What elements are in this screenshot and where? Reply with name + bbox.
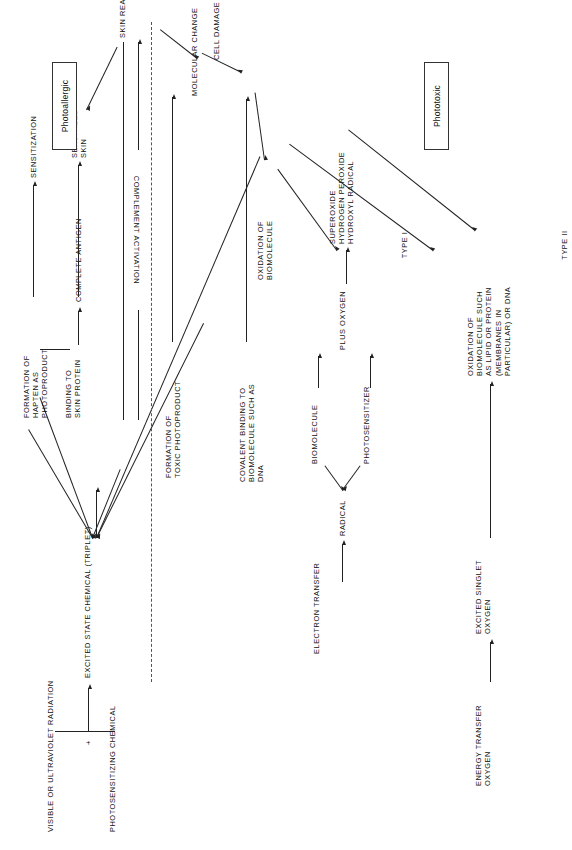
label-type-ii: TYPE II	[560, 200, 569, 290]
node-toxic-photoproduct: FORMATION OF TOXIC PHOTOPRODUCT	[164, 338, 182, 478]
connector-oxidation-to-molecular-change	[255, 93, 265, 160]
connector-antigen-to-sensitized-skin	[78, 165, 79, 297]
connector-complement-activation-line	[123, 42, 124, 420]
connector-plus-oxygen-to-ros	[346, 250, 347, 284]
label-type-i: TYPE I	[400, 200, 409, 290]
arrowhead-radical-to-photosensitizer	[342, 485, 348, 491]
node-reactive-oxygen-species: SUPEROXIDE HYDROGEN PEROXIDE HYDROXYL RA…	[328, 94, 356, 244]
connector-sensitized-skin-to-skin-reaction	[86, 47, 118, 110]
connector-photosensitizer-to-plus-oxygen	[370, 356, 371, 388]
arrowhead-complement-to-skin-reaction	[138, 39, 142, 44]
node-complement-activation: COMPLEMENT ACTIVATION	[132, 150, 141, 310]
category-box-phototoxic: Phototoxic	[424, 62, 449, 150]
arrowhead-molecular-change-to-cell-damage	[237, 68, 243, 74]
connector-singlet-to-oxidation-lipid	[490, 384, 491, 538]
connector-electron-transfer-to-radical	[342, 544, 343, 582]
arrowhead-excited-to-energy-transfer	[96, 533, 102, 539]
node-skin-reaction: SKIN REACTION	[118, 0, 127, 38]
connector-dna-to-molecular-change	[289, 144, 433, 251]
figure-page: VISIBLE OR ULTRAVIOLET RADIATION + PHOTO…	[0, 0, 572, 850]
arrowhead-energy-transfer-to-singlet	[490, 639, 494, 644]
arrowhead-singlet-to-oxidation-lipid	[490, 381, 494, 386]
arrowhead-input-to-excited	[88, 684, 92, 689]
node-binding-skin-protein: BINDING TO SKIN PROTEIN	[64, 308, 82, 418]
connector-excited-to-hapten	[40, 397, 93, 538]
connector-excited-to-binding	[28, 429, 93, 538]
node-excited-state-chemical: EXCITED STATE CHEMICAL (TRIPLET)	[83, 518, 92, 678]
arrowhead-electron-transfer-to-radical	[342, 540, 346, 545]
node-radical: RADICAL	[338, 466, 347, 536]
flowchart-canvas: VISIBLE OR ULTRAVIOLET RADIATION + PHOTO…	[0, 0, 572, 850]
arrowhead-excited-to-covalent	[96, 487, 100, 492]
connector-binding-hapten-tie	[40, 349, 70, 350]
node-oxidation-lipid-protein: OXIDATION OF BIOMOLECULE SUCH AS LIPID O…	[466, 186, 512, 376]
node-covalent-binding: COVALENT BINDING TO BIOMOLECULE SUCH AS …	[238, 332, 266, 482]
node-molecular-change: MOLECULAR CHANGE	[190, 0, 199, 96]
connector-excited-to-covalent	[96, 490, 97, 538]
arrowhead-oxidation-to-molecular-change	[263, 155, 268, 161]
category-label-phototoxic: Phototoxic	[432, 85, 442, 127]
arrowhead-toxic-photoproduct-to-molecular-change	[172, 94, 176, 99]
connector-input-to-excited	[88, 688, 89, 732]
connector-binding-to-complete-antigen	[78, 311, 79, 345]
connector-antigen-to-sensitization	[33, 185, 34, 297]
connector-covalent-to-molecular-change	[246, 99, 247, 342]
connector-energy-transfer-to-singlet	[490, 642, 491, 682]
arrowhead-covalent-to-molecular-change	[246, 96, 250, 101]
node-sensitization: SENSITIZATION	[29, 68, 38, 178]
connector-biomolecule-to-plus-oxygen	[318, 356, 319, 388]
arrowhead-antigen-to-sensitization	[33, 181, 37, 186]
connector-input-bracket	[55, 731, 115, 732]
category-box-photoallergic: Photoallergic	[52, 62, 77, 150]
connector-toxic-photoproduct-to-molecular-change	[172, 97, 173, 342]
arrowhead-photosensitizer-to-plus-oxygen	[370, 353, 374, 358]
arrowhead-antigen-to-sensitized-skin	[78, 161, 82, 166]
node-cell-damage: CELL DAMAGE	[212, 0, 221, 60]
arrowhead-biomolecule-to-plus-oxygen	[318, 353, 322, 358]
category-label-photoallergic: Photoallergic	[60, 80, 70, 132]
arrowhead-binding-to-complete-antigen	[78, 307, 82, 312]
node-visible-uv-radiation: VISIBLE OR ULTRAVIOLET RADIATION	[46, 632, 55, 832]
arrowhead-ros-to-oxidation-biomolecule	[333, 245, 339, 251]
node-electron-transfer: ELECTRON TRANSFER	[312, 524, 321, 654]
node-photosensitizing-chemical: PHOTOSENSITIZING CHEMICAL	[108, 632, 117, 832]
divider-photoallergic-phototoxic	[151, 22, 152, 682]
arrowhead-dna-to-molecular-change	[429, 245, 435, 251]
plus-sign: +	[84, 731, 93, 745]
node-hapten-photoproduct: FORMATION OF HAPTEN AS PHOTOPRODUCT	[22, 300, 50, 418]
connector-oxidation-lipid-to-molecular-change	[348, 129, 475, 230]
arrowhead-plus-oxygen-to-ros	[346, 247, 350, 252]
arrowhead-sensitized-skin-to-skin-reaction	[86, 105, 92, 111]
node-oxidation-of-biomolecule: OXIDATION OF BIOMOLECULE	[256, 160, 274, 280]
